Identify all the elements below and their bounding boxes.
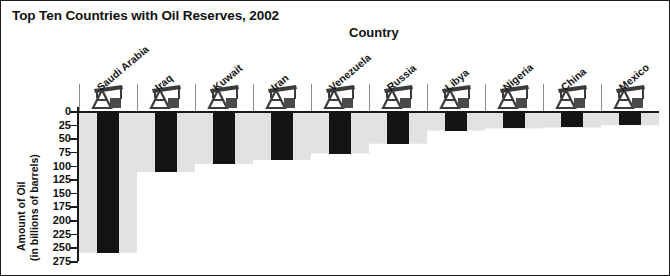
category-separator [311,84,312,111]
bar [561,111,583,127]
y-axis-tick [70,166,78,168]
y-axis-tick [70,247,78,249]
y-axis-tick-label: 200 [37,215,71,226]
bar [329,111,351,154]
chart-container: Top Ten Countries with Oil Reserves, 200… [0,0,670,276]
y-axis-tick-label: 100 [37,161,71,172]
bar [503,111,525,128]
y-axis-tick-label: 275 [37,256,71,267]
bar [213,111,235,164]
y-axis-tick-label: 175 [37,201,71,212]
y-axis-tick-label: 0 [37,106,71,117]
category-separator [543,84,544,111]
category-separator [195,84,196,111]
category-separator [79,84,80,111]
bar [155,111,177,172]
y-axis-tick-label: 75 [37,147,71,158]
y-axis-tick-label: 125 [37,174,71,185]
category-separator [369,84,370,111]
y-axis-tick [70,234,78,236]
y-axis-tick [70,220,78,222]
y-axis-tick-labels: 0255075100125150175200225250275 [37,105,71,265]
category-separator [427,84,428,111]
y-axis-tick-label: 25 [37,120,71,131]
y-axis-tick [70,206,78,208]
bar [387,111,409,144]
y-axis-tick-label: 50 [37,133,71,144]
y-axis-line [77,107,79,261]
bar [619,111,641,125]
y-axis-tick [70,261,78,263]
y-axis-tick [70,111,78,113]
bar [271,111,293,160]
y-axis-tick [70,193,78,195]
bar [97,111,119,253]
category-separator [601,84,602,111]
plot-area: Saudi ArabiaIraqKuwaitIranVenezuelaRussi… [79,111,659,261]
chart-title: Top Ten Countries with Oil Reserves, 200… [12,8,279,23]
y-axis-title-line1: Amount of Oil [15,182,28,251]
y-axis-tick [70,138,78,140]
y-axis-tick [70,179,78,181]
y-axis-title: Amount of Oil (in billions of barrels) [3,119,37,259]
category-separator [485,84,486,111]
bar [445,111,467,131]
y-axis-tick-label: 250 [37,242,71,253]
y-axis-tick-label: 150 [37,188,71,199]
y-axis-tick [70,125,78,127]
y-axis-tick-label: 225 [37,229,71,240]
category-separator [137,84,138,111]
x-axis-title: Country [349,25,399,40]
category-separator [253,84,254,111]
y-axis-tick [70,152,78,154]
